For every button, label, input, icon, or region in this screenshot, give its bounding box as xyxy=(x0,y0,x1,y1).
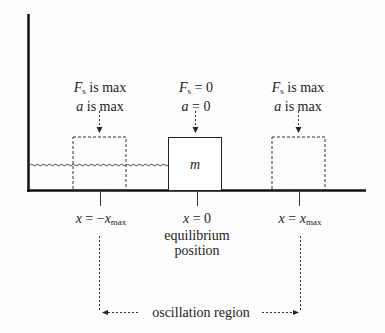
arrow-down-icon xyxy=(193,127,199,133)
oscillation-region-label: oscillation region xyxy=(142,305,260,320)
force-var: F xyxy=(179,80,188,95)
position-ticks xyxy=(101,192,300,206)
x-zero-label: x = 0 xyxy=(170,211,224,226)
neg-xmax-label: x = −xmax xyxy=(60,211,142,230)
right-extreme-box xyxy=(272,137,325,190)
arrow-left-icon xyxy=(102,310,108,315)
force-var: F xyxy=(272,80,281,95)
left-extreme-box xyxy=(73,137,126,190)
position-text: position xyxy=(150,243,244,258)
max-sub: max xyxy=(111,217,127,227)
accel-text: is max xyxy=(83,99,123,114)
accel-text: = 0 xyxy=(189,99,211,114)
force-text: = 0 xyxy=(191,80,213,95)
force-text: is max xyxy=(86,80,126,95)
equilibrium-text: equilibrium xyxy=(150,228,244,243)
arrow-right-icon xyxy=(293,310,299,315)
mass-label: m xyxy=(168,157,222,172)
eq-text: = − xyxy=(82,211,105,226)
right-force-label: Fs is max a is max xyxy=(262,80,334,114)
equilibrium-label: equilibrium position xyxy=(150,228,244,258)
arrow-down-icon xyxy=(97,127,103,133)
force-text: is max xyxy=(284,80,324,95)
left-force-label: Fs is max a is max xyxy=(64,80,136,114)
accel-var: a xyxy=(182,99,189,114)
force-var: F xyxy=(74,80,83,95)
spring-icon xyxy=(30,164,168,166)
down-arrow-heads xyxy=(97,127,302,133)
accel-text: is max xyxy=(281,99,321,114)
pos-xmax-label: x = xmax xyxy=(262,211,338,230)
shm-diagram: Fs is max a is max Fs = 0 a = 0 Fs is ma… xyxy=(0,0,385,333)
arrow-down-icon xyxy=(296,127,302,133)
eq-text: = 0 xyxy=(189,211,211,226)
center-force-label: Fs = 0 a = 0 xyxy=(166,80,226,114)
eq-text: = xyxy=(285,211,300,226)
max-sub: max xyxy=(306,217,322,227)
